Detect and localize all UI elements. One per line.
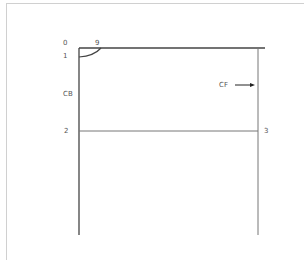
point-label-0: 0 xyxy=(63,39,67,47)
point-label-9: 9 xyxy=(95,39,99,47)
center-front-label: CF xyxy=(219,81,228,89)
point-label-2: 2 xyxy=(64,127,68,135)
cf-arrow-icon xyxy=(250,83,255,87)
neckline-curve xyxy=(79,48,101,57)
point-label-1: 1 xyxy=(63,52,67,60)
pattern-diagram: 0 9 1 CB 2 3 CF xyxy=(0,0,304,260)
center-back-label: CB xyxy=(63,90,73,98)
point-label-3: 3 xyxy=(264,127,268,135)
